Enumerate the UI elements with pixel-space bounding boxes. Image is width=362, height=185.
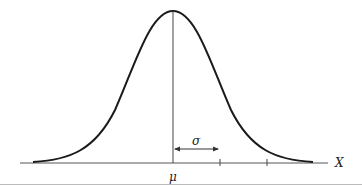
mu-label: μ <box>169 170 177 184</box>
arrowhead-right-icon <box>213 147 219 152</box>
x-axis-label: X <box>334 156 344 170</box>
normal-distribution-diagram: σ μ X <box>0 0 362 185</box>
sigma-label: σ <box>192 134 201 148</box>
arrowhead-left-icon <box>174 147 180 152</box>
